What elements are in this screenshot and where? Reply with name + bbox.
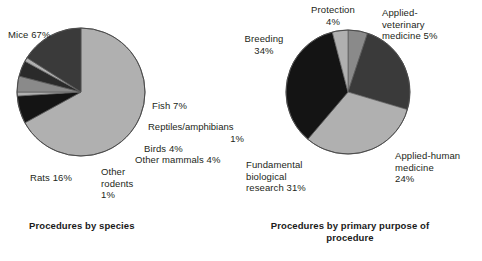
purpose-label-fundamental-biological-research: Fundamental biological research 31% [246, 159, 306, 194]
pie-species [17, 28, 145, 156]
species-label-rats: Rats 16% [30, 172, 72, 184]
purpose-chart-caption: Procedures by primary purpose of procedu… [268, 220, 432, 244]
species-label-other-rodents: Other rodents 1% [101, 166, 133, 201]
species-label-other-mammals: Other mammals 4% [135, 154, 221, 166]
purpose-label-applied-human-medicine: Applied-human medicine 24% [395, 150, 460, 185]
purpose-label-applied-veterinary-medicine: Applied- veterinary medicine 5% [382, 7, 438, 42]
species-chart-caption: Procedures by species [29, 220, 135, 232]
species-label-reptiles-amphibians-name: Reptiles/amphibians [148, 121, 244, 133]
species-label-fish: Fish 7% [152, 100, 187, 112]
pie-purpose [286, 30, 410, 154]
purpose-label-breeding: Breeding 34% [228, 33, 300, 56]
purpose-label-protection: Protection 4% [297, 4, 369, 27]
pie-charts-figure: Mice 67% Fish 7% Reptiles/amphibians 1% … [0, 0, 482, 261]
species-label-birds: Birds 4% [144, 143, 183, 155]
species-label-mice: Mice 67% [8, 29, 51, 41]
species-label-reptiles-amphibians: Reptiles/amphibians 1% [148, 121, 244, 144]
